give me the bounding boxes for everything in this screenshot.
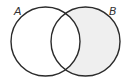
set-a-label: A [13, 5, 22, 18]
venn-diagram: A B [0, 0, 127, 82]
set-b-label: B [109, 5, 117, 18]
